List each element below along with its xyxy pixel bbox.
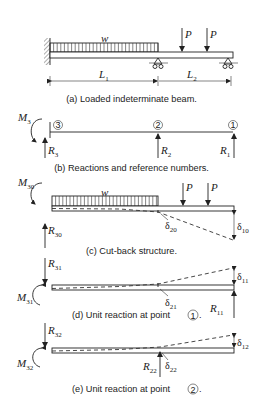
caption-period: .: [199, 384, 202, 394]
deflected-shape: [52, 209, 233, 241]
moment-arrow-icon: [31, 119, 42, 142]
distributed-load: [50, 43, 158, 52]
deflection-label-d20: δ20: [165, 220, 177, 234]
beam-analysis-figure: w P P L1 L2 (a) Loaded i: [0, 0, 263, 403]
panel-b-reactions: M3 3 2 1 R3 R2 R1 (b) Reactions and refe…: [17, 111, 238, 173]
deflection-label-d22: δ22: [165, 360, 177, 374]
point-number-3: 3: [55, 120, 60, 130]
beam: [50, 52, 233, 58]
caption-point-number: 1: [190, 311, 195, 321]
roller-support-icon: [219, 58, 238, 69]
beam: [52, 348, 234, 353]
beam: [52, 285, 234, 290]
caption-e: (e) Unit reaction at point: [72, 384, 170, 394]
point-load-label-2: P: [210, 181, 218, 193]
reaction-label-R2: R2: [160, 144, 172, 159]
moment-label-M31: M31: [16, 291, 34, 306]
moment-arrow-icon: [33, 285, 42, 305]
caption-a: (a) Loaded indeterminate beam.: [66, 94, 197, 104]
panel-d-unit-reaction-1: R31 M31 δ21 δ11 R11 (d) Unit reaction at…: [16, 257, 249, 321]
caption-d: (d) Unit reaction at point: [72, 310, 170, 320]
moment-label-M32: M32: [16, 357, 34, 372]
reaction-label-R1: R1: [219, 144, 231, 159]
caption-b: (b) Reactions and reference numbers.: [54, 163, 209, 173]
panel-e-unit-reaction-2: R32 M32 R22 δ22 δ12 (e) Unit reaction at…: [16, 323, 249, 395]
deflection-label-d10: δ10: [237, 221, 249, 235]
point-number-1: 1: [230, 120, 235, 130]
deflection-label-d12: δ12: [237, 337, 249, 351]
dimension-lines: [50, 76, 231, 86]
point-load-label-1: P: [185, 181, 193, 193]
panel-a-loaded-beam: w P P L1 L2 (a) Loaded i: [44, 28, 238, 104]
panel-c-cutback: M30 w P P δ20 δ10 R30 (c) Cut-back struc…: [17, 176, 249, 256]
load-label-w: w: [101, 32, 109, 44]
caption-c: (c) Cut-back structure.: [86, 246, 177, 256]
reaction-label-R3: R3: [47, 144, 59, 159]
reaction-label-R32: R32: [47, 324, 62, 339]
fixed-support-icon: [44, 38, 50, 65]
reaction-label-R31: R31: [47, 257, 62, 272]
moment-arrow-icon: [33, 348, 42, 367]
reaction-label-R22: R22: [142, 360, 157, 375]
caption-point-number: 2: [190, 385, 195, 395]
reaction-label-R11: R11: [209, 302, 224, 317]
moment-label-M30: M30: [17, 176, 35, 191]
load-label-w: w: [101, 186, 109, 198]
point-number-2: 2: [155, 120, 160, 130]
caption-period: .: [199, 310, 202, 320]
point-load-label-1: P: [184, 28, 192, 40]
point-load-label-2: P: [209, 28, 217, 40]
deflection-label-d21: δ21: [165, 297, 177, 311]
moment-label-M3: M3: [17, 111, 31, 126]
deflection-label-d11: δ11: [237, 271, 249, 285]
reaction-label-R30: R30: [47, 224, 62, 239]
beam: [52, 206, 234, 211]
roller-support-icon: [149, 58, 168, 69]
